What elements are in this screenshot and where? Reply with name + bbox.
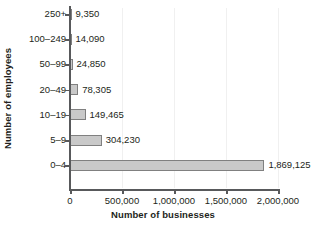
- x-axis-tick-label: 2,000,000: [257, 195, 299, 207]
- bar-value-label: 24,850: [77, 57, 106, 71]
- y-axis-tick-label: 10–19: [16, 108, 66, 122]
- x-axis-tick-label: 1,500,000: [205, 195, 247, 207]
- y-axis-tick-mark: [65, 115, 70, 117]
- y-axis-title-text: Number of employees: [3, 47, 14, 148]
- bar-value-label: 1,869,125: [268, 158, 310, 172]
- x-axis-tick-mark: [278, 189, 280, 194]
- y-axis-tick-mark: [65, 64, 70, 66]
- y-axis-tick-mark: [65, 90, 70, 92]
- y-axis-line: [69, 6, 71, 190]
- x-axis-tick-label: 0: [67, 195, 72, 207]
- x-axis-tick-mark: [174, 189, 176, 194]
- bar-value-label: 78,305: [82, 83, 111, 97]
- y-axis-tick-mark: [65, 165, 70, 167]
- bar-series: 9,35014,09024,85078,305149,465304,2301,8…: [70, 8, 278, 188]
- y-axis-tick-label: 100–249: [16, 32, 66, 46]
- bar: [70, 84, 78, 95]
- bar-value-label: 149,465: [90, 108, 124, 122]
- y-axis-tick-label: 20–49: [16, 83, 66, 97]
- y-axis-tick-mark: [65, 39, 70, 41]
- x-axis-tick-label: 1,000,000: [153, 195, 195, 207]
- y-axis-tick-mark: [65, 14, 70, 16]
- y-axis-tick-labels: 250+100–24950–9920–4910–195–90–4: [16, 8, 66, 188]
- bar-value-label: 304,230: [106, 133, 140, 147]
- bar: [70, 135, 102, 146]
- y-axis-tick-label: 250+: [16, 7, 66, 21]
- y-axis-title: Number of employees: [0, 0, 16, 196]
- x-axis-tick-mark: [226, 189, 228, 194]
- y-axis-tick-label: 0–4: [16, 158, 66, 172]
- x-axis-title-text: Number of businesses: [111, 209, 215, 220]
- x-axis-tick-mark: [122, 189, 124, 194]
- bar-chart-figure: Number of employees 250+100–24950–9920–4…: [0, 0, 326, 232]
- plot-area: 9,35014,09024,85078,305149,465304,2301,8…: [70, 8, 278, 188]
- x-axis-tick-mark: [70, 189, 72, 194]
- bar: [70, 109, 86, 120]
- y-axis-tick-label: 50–99: [16, 57, 66, 71]
- bar-value-label: 14,090: [76, 32, 105, 46]
- x-axis-tick-label: 500,000: [105, 195, 139, 207]
- x-axis-title: Number of businesses: [0, 209, 326, 220]
- y-axis-tick-mark: [65, 140, 70, 142]
- bar-value-label: 9,350: [76, 7, 100, 21]
- y-axis-tick-label: 5–9: [16, 133, 66, 147]
- bar: [70, 160, 264, 171]
